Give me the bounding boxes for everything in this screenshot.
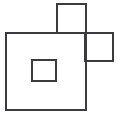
figure-canvas [0, 0, 120, 119]
inner-small-square-shape [32, 60, 56, 81]
right-square-shape [85, 33, 113, 61]
overlapping-squares-figure [0, 0, 120, 119]
large-square-shape [6, 33, 86, 110]
top-square-shape [57, 4, 86, 33]
